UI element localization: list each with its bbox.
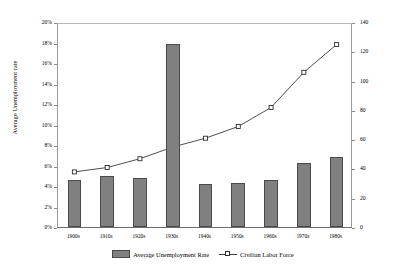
line-marker-1910s bbox=[105, 166, 109, 170]
left-tick-mark bbox=[54, 146, 57, 147]
legend-label-unemployment: Average Unemployment Rate bbox=[133, 251, 209, 258]
right-tick-label-40: 40 bbox=[360, 166, 384, 172]
bar-1940s bbox=[199, 184, 213, 227]
bar-1970s bbox=[297, 163, 311, 227]
left-tick-mark bbox=[54, 167, 57, 168]
bar-1910s bbox=[100, 176, 114, 227]
chart-legend: Average Unemployment Rate Civilian Labor… bbox=[0, 250, 406, 258]
right-tick-label-100: 100 bbox=[360, 79, 384, 85]
left-axis-title: Average Unemployment rate bbox=[11, 38, 18, 158]
bar-1950s bbox=[231, 183, 245, 227]
left-tick-mark bbox=[54, 126, 57, 127]
left-tick-label-6%: 6% bbox=[28, 164, 52, 170]
line-marker-1960s bbox=[269, 105, 273, 109]
legend-item-labor-force: Civilian Labor Force bbox=[219, 251, 294, 258]
left-tick-label-4%: 4% bbox=[28, 184, 52, 190]
left-tick-label-0%: 0% bbox=[28, 225, 52, 231]
bar-swatch-icon bbox=[112, 250, 130, 258]
right-tick-label-20: 20 bbox=[360, 196, 384, 202]
right-tick-mark bbox=[352, 228, 355, 229]
right-tick-mark bbox=[352, 23, 355, 24]
right-tick-mark bbox=[352, 52, 355, 53]
chart-container: Average Unemployment rate Civilian Labor… bbox=[0, 0, 406, 276]
left-tick-label-12%: 12% bbox=[28, 102, 52, 108]
line-marker-1980s bbox=[335, 43, 339, 47]
line-marker-icon bbox=[219, 251, 237, 258]
right-tick-label-120: 120 bbox=[360, 49, 384, 55]
left-tick-label-10%: 10% bbox=[28, 123, 52, 129]
left-tick-label-20%: 20% bbox=[28, 20, 52, 26]
line-marker-1940s bbox=[204, 136, 208, 140]
right-tick-label-140: 140 bbox=[360, 20, 384, 26]
left-tick-mark bbox=[54, 228, 57, 229]
bar-1960s bbox=[264, 180, 278, 227]
plot-area bbox=[57, 23, 352, 228]
right-tick-label-60: 60 bbox=[360, 137, 384, 143]
left-tick-mark bbox=[54, 64, 57, 65]
right-tick-mark bbox=[352, 199, 355, 200]
bar-1930s bbox=[166, 44, 180, 227]
left-tick-mark bbox=[54, 105, 57, 106]
right-tick-mark bbox=[352, 111, 355, 112]
left-tick-label-8%: 8% bbox=[28, 143, 52, 149]
left-tick-mark bbox=[54, 44, 57, 45]
left-tick-mark bbox=[54, 85, 57, 86]
right-tick-mark bbox=[352, 82, 355, 83]
x-tick-label-1980s: 1980s bbox=[316, 234, 356, 239]
line-marker-1970s bbox=[302, 70, 306, 74]
line-marker-1950s bbox=[236, 125, 240, 129]
bar-1920s bbox=[133, 178, 147, 227]
legend-label-labor-force: Civilian Labor Force bbox=[240, 251, 294, 258]
left-tick-label-16%: 16% bbox=[28, 61, 52, 67]
right-tick-label-80: 80 bbox=[360, 108, 384, 114]
left-tick-label-18%: 18% bbox=[28, 41, 52, 47]
bar-1980s bbox=[330, 157, 344, 227]
line-marker-1920s bbox=[138, 157, 142, 161]
right-tick-label-0: 0 bbox=[360, 225, 384, 231]
left-tick-mark bbox=[54, 208, 57, 209]
right-tick-mark bbox=[352, 140, 355, 141]
left-tick-label-2%: 2% bbox=[28, 205, 52, 211]
bar-1900s bbox=[68, 180, 82, 227]
left-tick-label-14%: 14% bbox=[28, 82, 52, 88]
line-marker-1900s bbox=[72, 170, 76, 174]
left-tick-mark bbox=[54, 187, 57, 188]
legend-item-unemployment: Average Unemployment Rate bbox=[112, 250, 209, 258]
left-tick-mark bbox=[54, 23, 57, 24]
line-path bbox=[74, 45, 336, 172]
right-tick-mark bbox=[352, 169, 355, 170]
line-markers bbox=[72, 43, 338, 174]
